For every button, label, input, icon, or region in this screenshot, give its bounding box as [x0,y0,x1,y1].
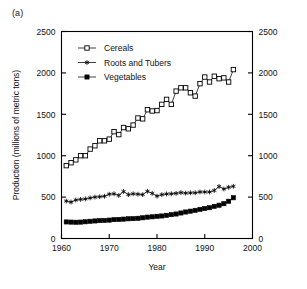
data-point-marker [198,81,202,85]
data-point-marker [217,203,221,207]
legend-item-vegetables: Vegetables [78,72,146,82]
data-point-marker [222,187,226,192]
data-point-marker [69,220,73,224]
data-point-marker [145,189,149,194]
data-point-marker [88,219,92,223]
data-point-marker [85,75,89,79]
data-point-marker [74,158,78,162]
data-point-marker [203,75,207,79]
chart-legend: CerealsRoots and TubersVegetables [78,43,171,82]
data-point-marker [212,204,216,208]
data-point-marker [184,210,188,214]
y-axis-right-tick-label: 1000 [259,151,278,161]
y-axis-left-tick-label: 500 [41,192,55,202]
data-point-marker [198,207,202,211]
data-point-marker [207,206,211,210]
data-point-marker [212,74,216,78]
data-point-marker [188,91,192,95]
data-point-marker [98,219,102,223]
data-point-marker [160,214,164,218]
data-point-marker [121,125,125,129]
data-point-marker [145,215,149,219]
data-point-marker [145,108,149,112]
data-point-marker [174,89,178,93]
x-axis-tick-label: 1970 [100,243,119,253]
data-point-marker [112,129,116,133]
data-point-marker [121,217,125,221]
data-point-marker [126,127,130,131]
data-point-marker [64,220,68,224]
series-line [66,186,233,202]
data-point-marker [155,194,159,199]
legend-item-cereals: Cereals [78,43,133,53]
data-point-marker [231,196,235,200]
legend-label: Vegetables [104,72,146,82]
data-point-marker [69,161,73,165]
data-point-marker [126,217,130,221]
data-point-marker [188,209,192,213]
data-point-marker [193,94,197,98]
data-point-marker [98,139,102,143]
y-axis-right-tick-label: 2000 [259,68,278,78]
data-point-marker [93,219,97,223]
legend-label: Cereals [104,43,133,53]
data-series-layer [64,67,236,224]
data-point-marker [93,144,97,148]
data-point-marker [131,123,135,127]
legend-label: Roots and Tubers [104,58,171,68]
data-point-marker [102,139,106,143]
data-point-marker [222,76,226,80]
data-point-marker [179,86,183,90]
series-roots-and-tubers [64,184,235,205]
x-axis-tick-label: 1980 [148,243,167,253]
data-point-marker [136,216,140,220]
data-point-marker [179,211,183,215]
y-axis-left-tick-label: 2500 [37,27,56,37]
data-point-marker [193,208,197,212]
data-point-marker [112,218,116,222]
data-point-marker [83,220,87,224]
x-axis-tick-label: 1990 [195,243,214,253]
data-point-marker [136,116,140,120]
figure-panel: (a) 05001000150020002500 050010001500200… [0,0,307,289]
y-axis-right-tick-label: 500 [259,192,273,202]
data-point-marker [117,217,121,221]
y-axis-right-tick-label: 1500 [259,110,278,120]
data-point-marker [226,80,230,84]
data-point-marker [222,202,226,206]
y-axis-left-tick-label: 1500 [37,110,56,120]
x-axis-tick-label: 2000 [243,243,262,253]
data-point-marker [203,206,207,210]
data-point-marker [78,154,82,158]
data-point-marker [64,163,68,167]
data-point-marker [207,80,211,84]
data-point-marker [227,199,231,203]
data-point-marker [155,214,159,218]
data-point-marker [183,86,187,90]
x-axis-tick-label: 1960 [52,243,71,253]
data-point-marker [169,102,173,106]
y-axis-left-tick-label: 1000 [37,151,56,161]
x-axis-ticks: 19601970198019902000 [52,234,262,253]
data-point-marker [169,213,173,217]
y-axis-right-tick-label: 2500 [259,27,278,37]
data-point-marker [164,213,168,217]
data-point-marker [88,147,92,151]
data-point-marker [74,220,78,224]
y-axis-left-tick-label: 2000 [37,68,56,78]
data-point-marker [160,102,164,106]
data-point-marker [150,215,154,219]
x-axis-title: Year [148,262,165,272]
series-cereals [64,67,236,167]
data-point-marker [117,132,121,136]
data-point-marker [231,67,235,71]
data-point-marker [150,109,154,113]
legend-item-roots-and-tubers: Roots and Tubers [78,58,171,68]
data-point-marker [85,46,89,50]
y-axis-title: Production (millions of metric tons) [11,70,21,201]
production-line-chart: 05001000150020002500 0500100015002000250… [0,0,307,289]
data-point-marker [150,191,154,196]
data-point-marker [102,218,106,222]
data-point-marker [164,97,168,101]
data-point-marker [140,117,144,121]
